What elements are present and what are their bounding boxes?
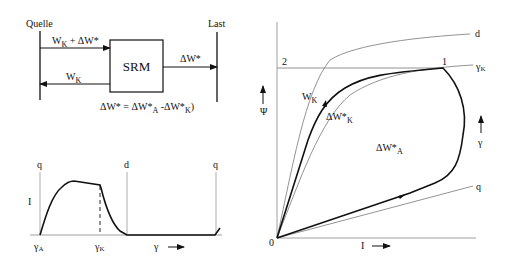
load-label: Last — [208, 18, 225, 29]
output-energy-label: ΔW* — [180, 53, 201, 64]
current-y-label: I — [28, 196, 31, 207]
block-diagram: Quelle Last SRM WK + ΔW* WK ΔW* ΔW* = ΔW… — [26, 18, 225, 115]
srm-label: SRM — [123, 59, 151, 74]
current-waveform — [40, 181, 220, 235]
curve-gamma-k-label: γK — [475, 61, 485, 73]
q-right-label: q — [213, 159, 218, 170]
point-1-label: 1 — [442, 56, 447, 67]
return-energy-label: WK — [66, 71, 81, 85]
dwa-label: ΔW*A — [376, 142, 403, 156]
current-axis-label: I — [361, 240, 364, 251]
flux-plot: 0 I Ψ 2 1 d γK q WK ΔW*K ΔW*A γ — [260, 22, 485, 251]
source-label: Quelle — [26, 18, 53, 29]
current-plot: q d q I γA γK γ — [28, 159, 222, 253]
energy-equation: ΔW* = ΔW*A -ΔW*K) — [100, 101, 194, 115]
loop-arrow-up — [322, 100, 327, 107]
dwk-label: ΔW*K — [326, 111, 353, 125]
gamma-increase-label: γ — [477, 137, 483, 148]
loop-arrow-right — [398, 194, 406, 199]
point-2-label: 2 — [282, 56, 287, 67]
curve-q-label: q — [476, 181, 481, 192]
gamma-axis-label: γ — [153, 241, 159, 252]
wk-label: WK — [302, 91, 317, 105]
d-label: d — [124, 159, 129, 170]
origin-label: 0 — [269, 237, 274, 248]
gamma-a-label: γA — [33, 241, 43, 253]
gamma-k-label: γK — [94, 241, 104, 253]
srm-energy-diagram: Quelle Last SRM WK + ΔW* WK ΔW* ΔW* = ΔW… — [0, 0, 514, 268]
q-left-label: q — [37, 159, 42, 170]
unaligned-line-q — [277, 186, 473, 238]
curve-d-label: d — [475, 28, 480, 39]
input-energy-label: WK + ΔW* — [52, 35, 99, 49]
psi-label: Ψ — [260, 106, 268, 117]
